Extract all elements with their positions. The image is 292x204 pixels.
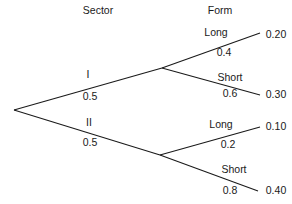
branch-label-sector-2-short: Short [221,164,246,175]
branch-label-sector-1-long: Long [204,27,227,38]
branch-label-sector-1-short: Short [217,72,242,83]
branch-probability-sector-2-long: 0.2 [221,139,236,150]
branch-line-sector-1-long [162,33,260,68]
branch-probability-sector-2-short: 0.8 [223,185,238,196]
tree-branch-lines [0,0,292,204]
branch-probability-sector-2: 0.5 [83,137,98,148]
branch-label-sector-2: II [86,117,92,128]
joint-probability-sector-1-long: 0.20 [266,29,286,40]
joint-probability-sector-2-short: 0.40 [266,185,286,196]
branch-line-sector-2-long [160,127,260,155]
column-header-sector: Sector [83,5,113,16]
branch-probability-sector-1-long: 0.4 [217,47,232,58]
branch-probability-sector-1-short: 0.6 [223,88,238,99]
joint-probability-sector-2-long: 0.10 [266,121,286,132]
branch-probability-sector-1: 0.5 [83,91,98,102]
column-header-form: Form [208,5,233,16]
probability-tree-diagram: Sector Form I 0.5 II 0.5 Long 0.4 0.20 S… [0,0,292,204]
joint-probability-sector-1-short: 0.30 [266,89,286,100]
branch-line-sector-1-short [162,68,260,95]
branch-label-sector-2-long: Long [209,119,232,130]
branch-label-sector-1: I [87,69,90,80]
